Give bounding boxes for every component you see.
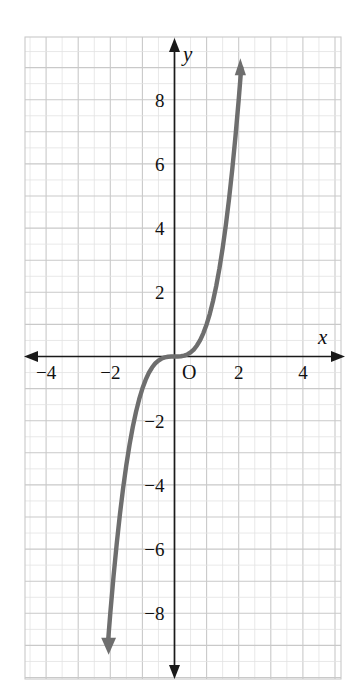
graph-figure: −4−224 2468−2−4−6−8 O x y [0, 0, 347, 700]
y-tick-label: −8 [144, 603, 164, 624]
x-tick-label: 4 [298, 362, 308, 383]
origin-label: O [182, 361, 196, 383]
y-tick-label: 2 [155, 282, 165, 303]
x-tick-label: −4 [36, 362, 57, 383]
y-tick-label: 4 [155, 218, 165, 239]
x-axis-label: x [317, 325, 328, 349]
y-tick-label: −6 [144, 539, 164, 560]
x-tick-label: 2 [234, 362, 244, 383]
y-axis-label: y [181, 42, 193, 66]
x-tick-label: −2 [100, 362, 120, 383]
y-tick-label: 6 [155, 154, 165, 175]
y-tick-label: −4 [144, 475, 165, 496]
y-tick-label: 8 [155, 90, 165, 111]
figure-background [0, 0, 347, 700]
coordinate-plane-svg: −4−224 2468−2−4−6−8 O x y [0, 0, 347, 700]
y-tick-label: −2 [144, 411, 164, 432]
